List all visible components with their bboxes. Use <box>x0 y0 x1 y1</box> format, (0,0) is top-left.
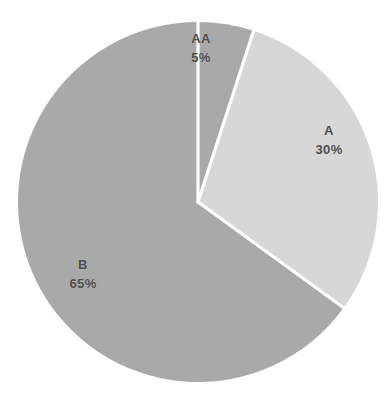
pie-label-a-name: A <box>303 122 355 141</box>
pie-label-aa-value: 5% <box>178 49 224 68</box>
pie-label-b: B 65% <box>57 256 109 294</box>
pie-label-b-name: B <box>57 256 109 275</box>
pie-label-a: A 30% <box>303 122 355 160</box>
pie-label-b-value: 65% <box>57 275 109 294</box>
pie-label-a-value: 30% <box>303 141 355 160</box>
pie-chart-figure: AA 5% A 30% B 65% <box>0 0 389 409</box>
pie-label-aa-name: AA <box>178 30 224 49</box>
pie-label-aa: AA 5% <box>178 30 224 68</box>
